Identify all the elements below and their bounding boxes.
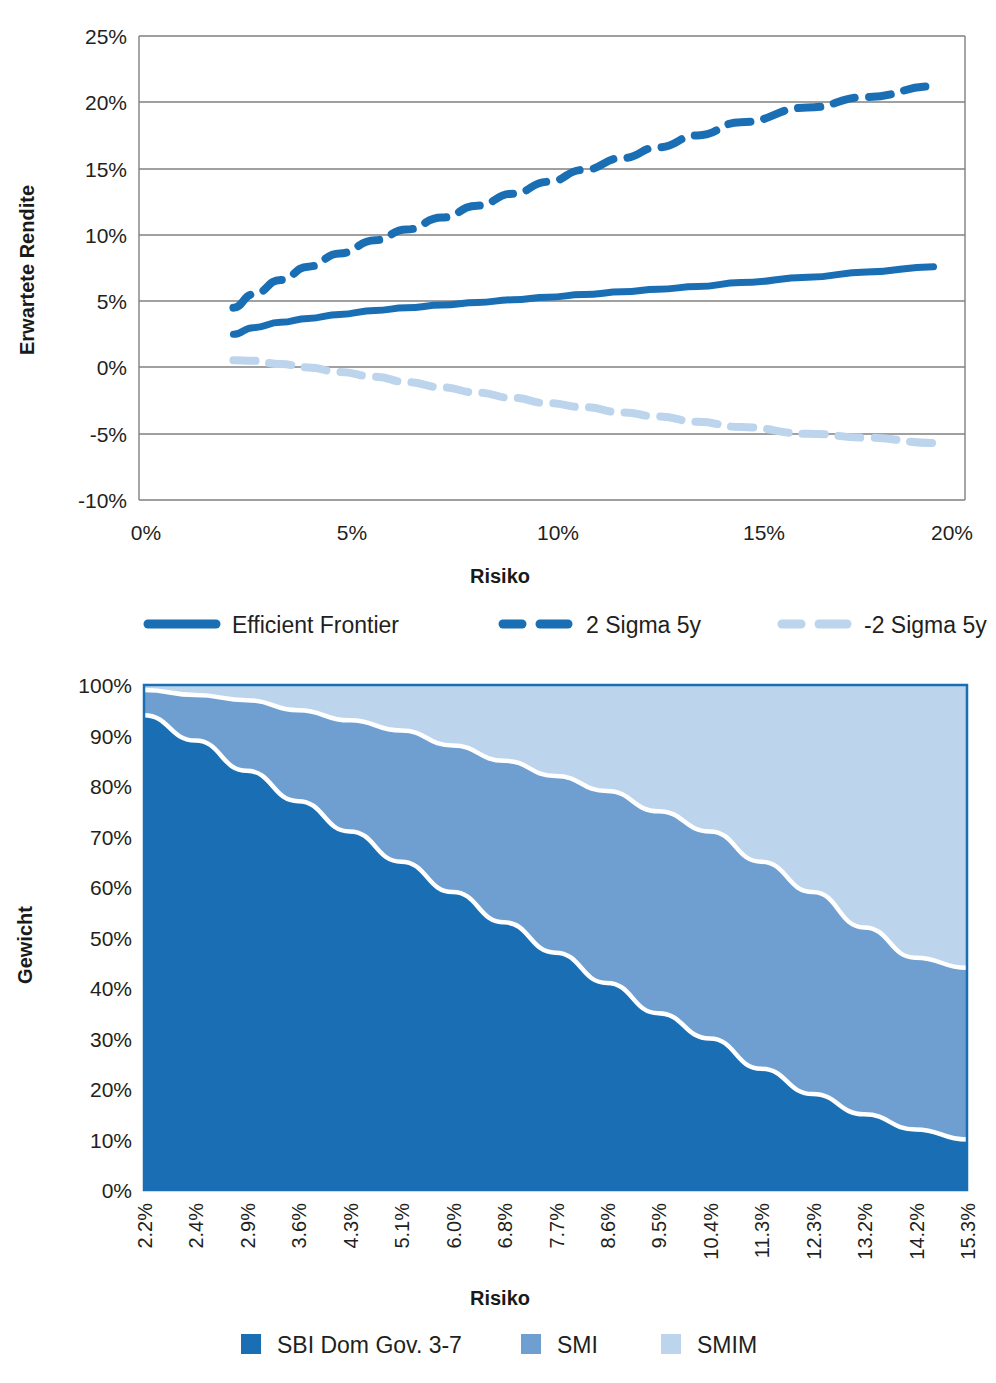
x-tick-label: 10% [537,521,579,544]
y-tick-label: 60% [90,876,132,899]
frontier-y-axis-title: Erwartete Rendite [16,185,38,355]
x-tick-label: 11.3% [751,1203,773,1258]
x-tick-label: 2.4% [185,1203,207,1249]
x-tick-label: 9.5% [648,1203,670,1249]
frontier-y-tick-labels: 25% 20% 15% 10% 5% 0% -5% -10% [78,25,127,512]
y-tick-label: 30% [90,1028,132,1051]
y-tick-label: -5% [90,423,127,446]
weights-x-axis-title: Risiko [470,1287,530,1309]
x-tick-label: 2.9% [237,1203,259,1249]
x-tick-label: 6.8% [494,1203,516,1249]
y-tick-label: 100% [78,674,132,697]
weights-areas-group [144,685,967,1190]
weights-legend-svg: SBI Dom Gov. 3-7 SMI SMIM [0,1325,996,1383]
weights-x-tick-labels: 2.2%2.4%2.9%3.6%4.3%5.1%6.0%6.8%7.7%8.6%… [134,1203,979,1260]
x-tick-label: 6.0% [443,1203,465,1249]
legend-item-smim: SMIM [661,1332,757,1358]
x-tick-label: 14.2% [906,1203,928,1260]
y-tick-label: 15% [85,158,127,181]
y-tick-label: -10% [78,489,127,512]
efficient-frontier-chart: Erwartete Rendite 25% 20% 15% 10% 5% 0% … [0,0,996,600]
x-tick-label: 13.2% [854,1203,876,1260]
frontier-series-group [233,86,933,443]
x-tick-label: 7.7% [546,1203,568,1249]
efficient-frontier-plot: Erwartete Rendite 25% 20% 15% 10% 5% 0% … [0,0,996,600]
weights-area-chart: Gewicht 100%90%80%70%60%50%40%30%20%10%0… [0,655,996,1325]
x-tick-label: 10.4% [700,1203,722,1260]
legend-item-smi: SMI [521,1332,598,1358]
y-tick-label: 20% [85,91,127,114]
legend-item-sbi-dom-gov: SBI Dom Gov. 3-7 [241,1332,462,1358]
y-tick-label: 10% [85,224,127,247]
x-tick-label: 5.1% [391,1203,413,1249]
frontier-x-tick-labels: 0% 5% 10% 15% 20% [131,521,973,544]
series-line-2-sigma-5y [233,360,933,443]
y-tick-label: 70% [90,826,132,849]
legend-item-minus-2-sigma-5y: -2 Sigma 5y [782,612,987,638]
x-tick-label: 15% [743,521,785,544]
y-tick-label: 10% [90,1129,132,1152]
legend-label: -2 Sigma 5y [864,612,987,638]
y-tick-label: 0% [97,356,127,379]
frontier-gridlines [139,36,965,500]
legend-item-2-sigma-5y: 2 Sigma 5y [503,612,702,638]
y-tick-label: 20% [90,1078,132,1101]
x-tick-label: 5% [337,521,367,544]
x-tick-label: 4.3% [340,1203,362,1249]
legend-swatch-square [521,1334,541,1354]
frontier-legend: Efficient Frontier 2 Sigma 5y -2 Sigma 5… [0,600,996,655]
y-tick-label: 5% [97,290,127,313]
x-tick-label: 12.3% [803,1203,825,1260]
legend-label: SMIM [697,1332,757,1358]
y-tick-label: 90% [90,725,132,748]
weights-y-axis-title: Gewicht [14,906,36,984]
legend-label: Efficient Frontier [232,612,399,638]
legend-label: 2 Sigma 5y [586,612,702,638]
weights-y-tick-labels: 100%90%80%70%60%50%40%30%20%10%0% [78,674,132,1202]
legend-label: SBI Dom Gov. 3-7 [277,1332,462,1358]
frontier-legend-svg: Efficient Frontier 2 Sigma 5y -2 Sigma 5… [0,600,996,655]
x-tick-label: 15.3% [957,1203,979,1260]
x-tick-label: 2.2% [134,1203,156,1249]
weights-plot: Gewicht 100%90%80%70%60%50%40%30%20%10%0… [0,655,996,1325]
legend-item-efficient-frontier: Efficient Frontier [148,612,399,638]
y-tick-label: 0% [102,1179,132,1202]
y-tick-label: 25% [85,25,127,48]
legend-label: SMI [557,1332,598,1358]
x-tick-label: 3.6% [288,1203,310,1249]
x-tick-label: 0% [131,521,161,544]
legend-swatch-square [241,1334,261,1354]
frontier-x-axis-title: Risiko [470,565,530,587]
y-tick-label: 80% [90,775,132,798]
weights-legend: SBI Dom Gov. 3-7 SMI SMIM [0,1325,996,1383]
x-tick-label: 20% [931,521,973,544]
y-tick-label: 50% [90,927,132,950]
legend-swatch-square [661,1334,681,1354]
y-tick-label: 40% [90,977,132,1000]
x-tick-label: 8.6% [597,1203,619,1249]
